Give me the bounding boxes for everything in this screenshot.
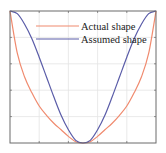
legend-label-assumed: Assumed shape (81, 34, 147, 45)
line-chart: Actual shape Assumed shape (0, 0, 166, 153)
legend-label-actual: Actual shape (81, 21, 136, 32)
legend: Actual shape Assumed shape (36, 21, 147, 45)
